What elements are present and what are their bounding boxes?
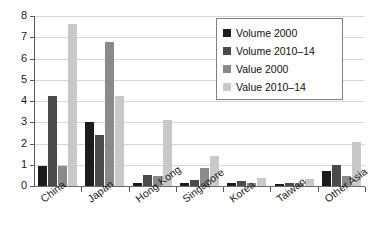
legend-item: Value 2010–14 <box>223 78 336 96</box>
bar <box>133 183 142 186</box>
legend-item: Value 2000 <box>223 60 336 78</box>
legend-swatch-icon <box>223 47 231 55</box>
bar-chart: 012345678 ChinaJapanHong KongSingaporeKo… <box>0 0 373 251</box>
y-tick-label: 0 <box>7 180 27 191</box>
bar-group <box>81 16 128 186</box>
legend-label: Value 2000 <box>236 64 288 75</box>
y-tick-label: 8 <box>7 10 27 21</box>
y-tick-label: 6 <box>7 53 27 64</box>
legend-item: Volume 2010–14 <box>223 42 336 60</box>
bar <box>105 42 114 187</box>
y-tick-mark <box>30 186 35 187</box>
x-tick-mark <box>176 187 177 192</box>
legend-swatch-icon <box>223 83 231 91</box>
bar <box>115 96 124 186</box>
bar-group <box>129 16 176 186</box>
x-tick-mark <box>270 187 271 192</box>
chart-legend: Volume 2000 Volume 2010–14 Value 2000 Va… <box>216 18 343 100</box>
bar-group-bars <box>81 16 128 186</box>
y-tick-label: 5 <box>7 74 27 85</box>
legend-label: Value 2010–14 <box>236 82 306 93</box>
legend-label: Volume 2000 <box>236 28 297 39</box>
bar-group <box>34 16 81 186</box>
bar <box>227 183 236 186</box>
y-tick-label: 4 <box>7 95 27 106</box>
x-tick-mark <box>318 187 319 192</box>
bar <box>322 171 331 186</box>
y-tick-label: 2 <box>7 138 27 149</box>
legend-item: Volume 2000 <box>223 24 336 42</box>
bar-group-bars <box>34 16 81 186</box>
bar <box>95 135 104 186</box>
bar <box>85 122 94 186</box>
legend-label: Volume 2010–14 <box>236 46 315 57</box>
x-tick-mark <box>129 187 130 192</box>
bar <box>48 96 57 186</box>
bar <box>275 184 284 186</box>
bar <box>180 183 189 186</box>
bar-group-bars <box>129 16 176 186</box>
legend-swatch-icon <box>223 65 231 73</box>
y-tick-label: 1 <box>7 159 27 170</box>
x-tick-mark <box>365 187 366 192</box>
legend-swatch-icon <box>223 29 231 37</box>
bar <box>257 178 266 187</box>
bar <box>38 166 47 186</box>
y-tick-label: 7 <box>7 31 27 42</box>
x-tick-mark <box>81 187 82 192</box>
bar <box>68 24 77 186</box>
x-tick-mark <box>223 187 224 192</box>
y-tick-label: 3 <box>7 116 27 127</box>
